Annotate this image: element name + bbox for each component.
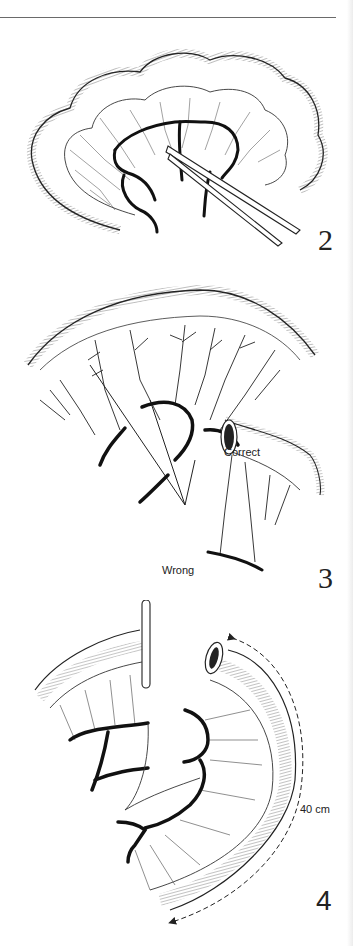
figure-3-number: 3 (318, 563, 333, 593)
label-correct: Correct (224, 447, 260, 458)
figure-4-number: 4 (316, 887, 332, 915)
figure-3: Correct Wrong 3 (0, 280, 353, 600)
figure-2: 2 (0, 40, 353, 270)
label-wrong: Wrong (162, 565, 194, 576)
figure-2-number: 2 (318, 225, 333, 255)
figure-4-illustration (0, 600, 353, 946)
measurement-label: 40 cm (300, 804, 330, 815)
figure-2-illustration (0, 40, 353, 270)
figure-4: 40 cm 4 (0, 600, 353, 946)
header-rule (0, 17, 336, 18)
figure-3-illustration (0, 280, 353, 600)
